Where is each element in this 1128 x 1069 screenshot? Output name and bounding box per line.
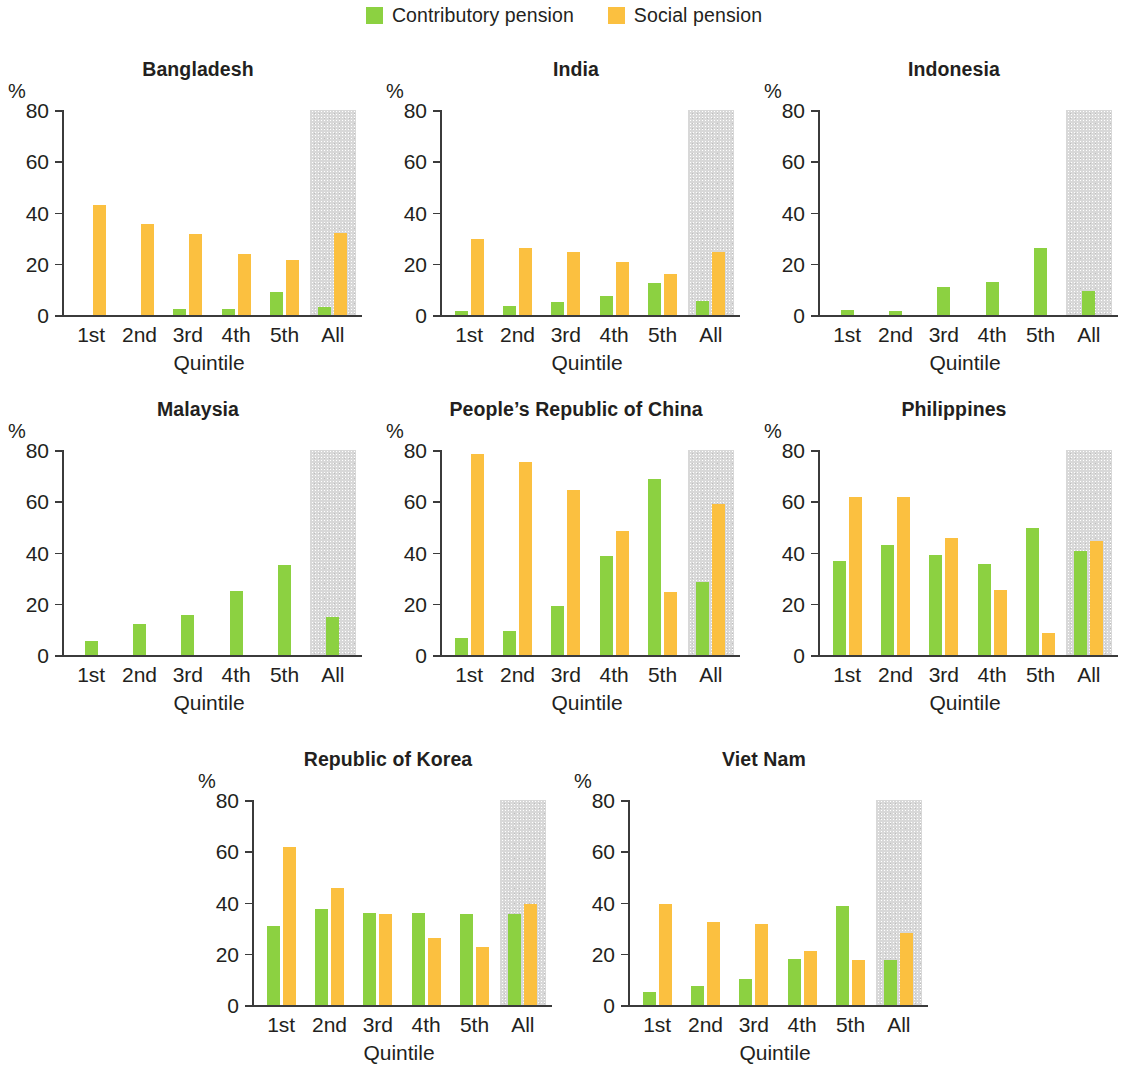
x-tick-3rd: 3rd bbox=[551, 663, 581, 687]
x-tick-3rd: 3rd bbox=[739, 1013, 769, 1037]
bar-social-2nd bbox=[331, 888, 344, 1005]
y-tick-40: 40 bbox=[592, 892, 615, 913]
y-tick-0: 0 bbox=[415, 645, 427, 666]
x-axis-tick-labels: 1st2nd3rd4th5thAll bbox=[442, 323, 740, 353]
plot-area: 8060402001st2nd3rd4th5thAllQuintile bbox=[0, 398, 378, 728]
bars-area bbox=[64, 110, 362, 315]
x-tick-2nd: 2nd bbox=[878, 323, 913, 347]
bar-contributory-4th bbox=[788, 959, 801, 1005]
plot-area: 8060402001st2nd3rd4th5thAllQuintile bbox=[190, 748, 568, 1069]
x-axis-tick-labels: 1st2nd3rd4th5thAll bbox=[64, 323, 362, 353]
y-tick-20: 20 bbox=[592, 943, 615, 964]
x-tick-4th: 4th bbox=[600, 663, 629, 687]
y-tick-mark-60 bbox=[433, 501, 440, 503]
bars-area bbox=[820, 450, 1118, 655]
bar-social-1st bbox=[849, 497, 862, 655]
x-tick-4th: 4th bbox=[978, 323, 1007, 347]
chart-panel-bangladesh: Bangladesh%8060402001st2nd3rd4th5thAllQu… bbox=[0, 58, 378, 388]
chart-panel-malaysia: Malaysia%8060402001st2nd3rd4th5thAllQuin… bbox=[0, 398, 378, 728]
legend-item-social: Social pension bbox=[608, 4, 762, 27]
y-tick-80: 80 bbox=[592, 790, 615, 811]
bar-contributory-3rd bbox=[551, 302, 564, 315]
x-axis-tick-labels: 1st2nd3rd4th5thAll bbox=[820, 663, 1118, 693]
x-axis-line bbox=[818, 315, 1118, 317]
bar-contributory-2nd bbox=[503, 306, 516, 315]
bar-contributory-4th bbox=[978, 564, 991, 655]
y-tick-mark-40 bbox=[811, 553, 818, 555]
x-tick-1st: 1st bbox=[267, 1013, 295, 1037]
x-tick-5th: 5th bbox=[1026, 323, 1055, 347]
x-axis-tick-labels: 1st2nd3rd4th5thAll bbox=[442, 663, 740, 693]
x-tick-2nd: 2nd bbox=[500, 323, 535, 347]
bar-contributory-all bbox=[1074, 551, 1087, 655]
y-tick-60: 60 bbox=[782, 491, 805, 512]
y-tick-60: 60 bbox=[216, 841, 239, 862]
x-tick-3rd: 3rd bbox=[929, 323, 959, 347]
x-tick-2nd: 2nd bbox=[688, 1013, 723, 1037]
x-axis-title: Quintile bbox=[739, 1041, 810, 1065]
bar-contributory-3rd bbox=[173, 309, 186, 315]
bar-contributory-5th bbox=[460, 914, 473, 1005]
chart-panel-india: India%8060402001st2nd3rd4th5thAllQuintil… bbox=[378, 58, 756, 388]
y-tick-80: 80 bbox=[216, 790, 239, 811]
y-tick-mark-20 bbox=[621, 954, 628, 956]
bar-social-all bbox=[524, 904, 537, 1005]
bar-contributory-2nd bbox=[503, 631, 516, 655]
plot-area: 8060402001st2nd3rd4th5thAllQuintile bbox=[378, 58, 756, 388]
bar-contributory-all bbox=[1082, 291, 1095, 315]
x-tick-5th: 5th bbox=[270, 663, 299, 687]
bar-contributory-4th bbox=[986, 282, 999, 315]
x-tick-all: All bbox=[1077, 663, 1100, 687]
bar-contributory-4th bbox=[222, 309, 235, 315]
x-tick-5th: 5th bbox=[836, 1013, 865, 1037]
y-tick-60: 60 bbox=[592, 841, 615, 862]
bar-social-4th bbox=[616, 531, 629, 655]
bar-social-all bbox=[334, 233, 347, 315]
bar-contributory-1st bbox=[85, 641, 98, 655]
bar-social-3rd bbox=[945, 538, 958, 655]
legend-swatch-social-icon bbox=[608, 7, 625, 24]
y-tick-60: 60 bbox=[26, 151, 49, 172]
x-axis-title: Quintile bbox=[929, 351, 1000, 375]
bar-contributory-2nd bbox=[133, 624, 146, 655]
y-tick-mark-80 bbox=[245, 800, 252, 802]
y-tick-mark-0 bbox=[811, 315, 818, 317]
bars-area bbox=[630, 800, 928, 1005]
x-axis-tick-labels: 1st2nd3rd4th5thAll bbox=[820, 323, 1118, 353]
y-tick-40: 40 bbox=[782, 202, 805, 223]
bar-contributory-2nd bbox=[889, 311, 902, 315]
bar-social-2nd bbox=[519, 462, 532, 655]
x-tick-5th: 5th bbox=[648, 663, 677, 687]
bar-social-1st bbox=[659, 904, 672, 1005]
y-tick-20: 20 bbox=[216, 943, 239, 964]
bar-social-1st bbox=[283, 847, 296, 1005]
x-tick-4th: 4th bbox=[978, 663, 1007, 687]
x-axis-title: Quintile bbox=[551, 351, 622, 375]
bar-social-4th bbox=[616, 262, 629, 315]
y-tick-80: 80 bbox=[26, 440, 49, 461]
bar-social-all bbox=[712, 252, 725, 315]
y-tick-80: 80 bbox=[782, 100, 805, 121]
legend-swatch-contributory-icon bbox=[366, 7, 383, 24]
bar-contributory-1st bbox=[455, 311, 468, 315]
y-tick-mark-20 bbox=[811, 264, 818, 266]
bar-social-5th bbox=[476, 947, 489, 1005]
bar-contributory-all bbox=[326, 617, 339, 655]
x-axis-title: Quintile bbox=[173, 351, 244, 375]
plot-area: 8060402001st2nd3rd4th5thAllQuintile bbox=[566, 748, 944, 1069]
x-tick-all: All bbox=[887, 1013, 910, 1037]
x-tick-2nd: 2nd bbox=[122, 323, 157, 347]
bar-social-3rd bbox=[379, 914, 392, 1005]
bar-social-5th bbox=[664, 592, 677, 655]
bar-social-3rd bbox=[567, 490, 580, 655]
y-tick-40: 40 bbox=[26, 202, 49, 223]
y-tick-mark-40 bbox=[621, 903, 628, 905]
x-tick-1st: 1st bbox=[643, 1013, 671, 1037]
x-tick-3rd: 3rd bbox=[929, 663, 959, 687]
y-tick-mark-80 bbox=[811, 110, 818, 112]
y-tick-mark-40 bbox=[433, 213, 440, 215]
x-tick-1st: 1st bbox=[833, 663, 861, 687]
all-column-highlight-band bbox=[1066, 110, 1112, 315]
y-tick-mark-60 bbox=[245, 851, 252, 853]
bar-social-all bbox=[1090, 541, 1103, 655]
